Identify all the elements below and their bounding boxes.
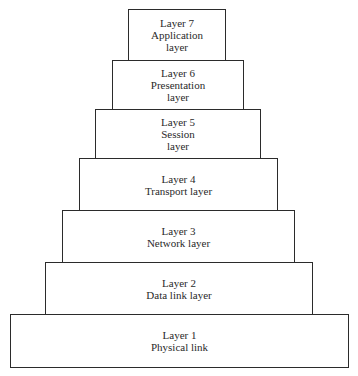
layer-7-title: Layer 7: [160, 17, 194, 29]
layer-3-box: Layer 3 Network layer: [62, 210, 295, 263]
layer-2-title: Layer 2: [162, 277, 196, 289]
layer-5-title: Layer 5: [161, 116, 195, 128]
layer-4-title: Layer 4: [162, 173, 196, 185]
layer-2-box: Layer 2 Data link layer: [45, 262, 313, 315]
layer-1-title: Layer 1: [163, 329, 197, 341]
layer-6-name-line-2: layer: [167, 91, 189, 103]
layer-5-name-line-1: Session: [161, 128, 195, 140]
layer-3-title: Layer 3: [162, 225, 196, 237]
layer-5-box: Layer 5 Session layer: [95, 109, 261, 159]
layer-6-box: Layer 6 Presentation layer: [112, 60, 244, 110]
layer-5-name-line-2: layer: [167, 140, 189, 152]
layer-2-name: Data link layer: [146, 289, 211, 301]
layer-7-name-line-1: Application: [151, 29, 203, 41]
layer-4-name: Transport layer: [145, 185, 212, 197]
layer-4-box: Layer 4 Transport layer: [79, 158, 278, 211]
layer-1-name: Physical link: [151, 341, 208, 353]
layer-7-box: Layer 7 Application layer: [128, 9, 226, 61]
osi-layer-pyramid: Layer 7 Application layer Layer 6 Presen…: [0, 0, 358, 376]
layer-7-name-line-2: layer: [166, 41, 188, 53]
layer-1-box: Layer 1 Physical link: [10, 314, 349, 368]
layer-6-title: Layer 6: [161, 67, 195, 79]
layer-6-name-line-1: Presentation: [151, 79, 205, 91]
layer-3-name: Network layer: [147, 237, 210, 249]
